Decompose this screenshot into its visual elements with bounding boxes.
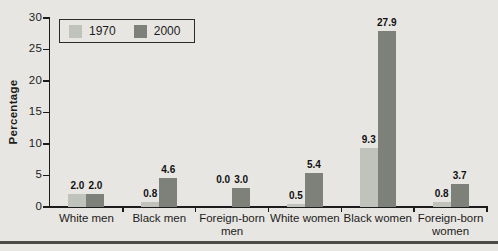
y-axis-tick-label: 30 <box>16 11 42 23</box>
x-axis-category-label: Black men <box>117 212 201 225</box>
bar-value-label: 0.8 <box>134 188 166 199</box>
y-axis-tick-label: 20 <box>16 74 42 86</box>
y-axis-tick-label: 25 <box>16 42 42 54</box>
legend-swatch-2000 <box>134 25 147 38</box>
y-axis-tick <box>43 49 50 51</box>
x-axis-category-label: Foreign-born men <box>190 212 274 238</box>
bar-1970-foreign-born-women <box>433 202 451 207</box>
bar-2000-white-men <box>86 194 104 207</box>
legend-label: 2000 <box>154 24 181 38</box>
bar-value-label: 9.3 <box>353 134 385 145</box>
x-axis-category-label: White men <box>44 212 128 225</box>
bar-value-label: 0.8 <box>426 188 458 199</box>
bar-chart: Percentage 19702000 0510152025302.02.0Wh… <box>0 0 498 251</box>
bar-2000-foreign-born-men <box>232 188 250 207</box>
bar-2000-black-women <box>378 31 396 207</box>
legend-swatch-1970 <box>69 25 82 38</box>
x-axis-category-label: White women <box>263 212 347 225</box>
bar-value-label: 5.4 <box>298 159 330 170</box>
x-axis-category-label: Foreign-born women <box>409 212 493 238</box>
bar-1970-black-women <box>360 148 378 207</box>
bar-1970-black-men <box>141 202 159 207</box>
y-axis-tick <box>43 206 50 208</box>
y-axis-tick <box>43 143 50 145</box>
legend-item-1970: 1970 <box>69 24 116 38</box>
y-axis-tick-label: 0 <box>16 200 42 212</box>
y-axis-tick <box>43 17 50 19</box>
legend-label: 1970 <box>89 24 116 38</box>
y-axis-tick <box>43 112 50 114</box>
y-axis-tick-label: 10 <box>16 137 42 149</box>
bar-value-label: 27.9 <box>371 17 403 28</box>
scanned-page: Percentage 19702000 0510152025302.02.0Wh… <box>0 0 498 251</box>
bar-value-label: 4.6 <box>152 164 184 175</box>
page-divider-line <box>0 241 498 244</box>
bar-value-label: 3.7 <box>444 170 476 181</box>
y-axis-tick-label: 15 <box>16 105 42 117</box>
y-axis-tick-label: 5 <box>16 168 42 180</box>
bar-1970-white-men <box>68 194 86 207</box>
x-axis-category-label: Black women <box>336 212 420 225</box>
plot-area <box>50 18 487 207</box>
legend-item-2000: 2000 <box>134 24 181 38</box>
y-axis-tick <box>43 80 50 82</box>
bar-value-label: 0.5 <box>280 190 312 201</box>
y-axis-tick <box>43 175 50 177</box>
bar-value-label: 3.0 <box>225 174 257 185</box>
bar-1970-white-women <box>287 204 305 207</box>
legend: 19702000 <box>59 19 195 43</box>
bar-value-label: 2.0 <box>79 180 111 191</box>
